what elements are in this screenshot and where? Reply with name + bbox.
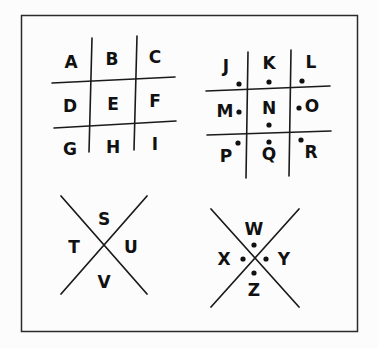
dot-k bbox=[266, 79, 271, 84]
cross-plain-cell-s: S bbox=[98, 209, 110, 229]
grid-plain-cell-c: C bbox=[149, 47, 161, 67]
grid-dotted-cell-m: M bbox=[217, 101, 234, 121]
grid-plain-hline-top bbox=[52, 77, 175, 83]
dot-l bbox=[299, 78, 304, 83]
grid-dotted-cell-j: J bbox=[222, 56, 229, 76]
cipher-key-canvas: A B C D E F G H I J K L M N bbox=[0, 0, 378, 348]
dot-j bbox=[236, 81, 241, 86]
dot-r bbox=[298, 137, 303, 142]
grid-dotted-cell-p: P bbox=[220, 146, 232, 166]
grid-dotted-cell-o: O bbox=[305, 96, 319, 116]
dot-o bbox=[296, 105, 301, 110]
grid-plain-vline-left bbox=[89, 38, 92, 152]
cross-dotted: W X Y Z bbox=[211, 209, 299, 307]
grid-plain-cell-g: G bbox=[63, 139, 77, 159]
dot-z bbox=[251, 270, 256, 275]
grid-plain-cell-i: I bbox=[152, 134, 158, 154]
grid-dotted-hline-top bbox=[206, 86, 330, 91]
cross-plain: S T U V bbox=[61, 196, 147, 294]
grid-plain-cell-f: F bbox=[149, 91, 161, 111]
dot-n bbox=[266, 122, 271, 127]
cross-dotted-cell-z: Z bbox=[248, 280, 260, 300]
grid-dotted-cell-k: K bbox=[262, 53, 276, 73]
cross-plain-cell-v: V bbox=[97, 272, 111, 292]
grid-dotted-hline-bottom bbox=[207, 131, 331, 135]
grid-dotted-cell-r: R bbox=[304, 142, 317, 162]
pigpen-cipher-figure: A B C D E F G H I J K L M N bbox=[0, 0, 378, 348]
grid-dotted: J K L M N O P Q R bbox=[206, 50, 331, 178]
cross-dotted-cell-w: W bbox=[245, 219, 264, 239]
grid-plain: A B C D E F G H I bbox=[52, 36, 176, 159]
grid-dotted-vline-right bbox=[289, 50, 291, 176]
dot-q bbox=[266, 139, 271, 144]
cross-dotted-cell-x: X bbox=[217, 249, 230, 269]
grid-dotted-cell-q: Q bbox=[262, 144, 276, 164]
grid-plain-cell-d: D bbox=[63, 96, 77, 116]
dot-p bbox=[235, 140, 240, 145]
grid-dotted-vline-left bbox=[246, 52, 248, 178]
grid-dotted-cell-l: L bbox=[306, 52, 317, 72]
cross-dotted-cell-y: Y bbox=[277, 249, 291, 269]
grid-plain-cell-h: H bbox=[106, 137, 120, 157]
grid-plain-cell-e: E bbox=[107, 94, 119, 114]
dot-w bbox=[251, 242, 256, 247]
grid-plain-vline-right bbox=[134, 36, 137, 150]
grid-plain-cell-b: B bbox=[106, 49, 119, 69]
dot-x bbox=[240, 256, 245, 261]
cross-plain-cell-t: T bbox=[68, 237, 80, 257]
grid-dotted-cell-n: N bbox=[262, 98, 276, 118]
grid-plain-hline-bottom bbox=[54, 121, 176, 128]
grid-plain-cell-a: A bbox=[64, 52, 78, 72]
cross-plain-cell-u: U bbox=[124, 237, 138, 257]
dot-m bbox=[236, 109, 241, 114]
dot-y bbox=[263, 256, 268, 261]
